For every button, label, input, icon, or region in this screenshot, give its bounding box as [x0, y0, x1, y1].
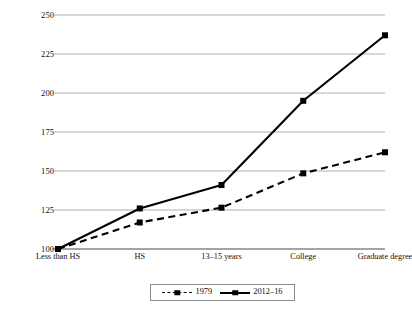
x-tick-label: College — [290, 252, 316, 261]
data-point-marker — [219, 182, 225, 188]
gridlines — [52, 15, 385, 249]
data-point-marker — [137, 219, 143, 225]
legend-item-2012-16[interactable]: 2012–16 — [220, 288, 282, 297]
legend-item-1979[interactable]: 1979 — [162, 288, 212, 297]
x-tick-label: Less than HS — [36, 252, 80, 261]
x-tick-label: Graduate degree — [358, 252, 412, 261]
x-tick-label: 13–15 years — [201, 252, 241, 261]
series-line-1979 — [58, 152, 385, 249]
legend-swatch-solid-icon — [220, 288, 250, 297]
data-point-marker — [382, 32, 388, 38]
series-line-2012–16 — [58, 35, 385, 249]
data-point-marker — [382, 149, 388, 155]
data-point-marker — [300, 170, 306, 176]
data-series-layer — [55, 32, 388, 252]
data-point-marker — [300, 98, 306, 104]
chart-legend: 1979 2012–16 — [150, 284, 295, 301]
data-point-marker — [219, 205, 225, 211]
legend-label-2012-16: 2012–16 — [253, 288, 282, 296]
data-point-marker — [137, 205, 143, 211]
legend-label-1979: 1979 — [195, 288, 212, 296]
x-tick-label: HS — [134, 252, 145, 261]
legend-swatch-dashed-icon — [162, 288, 192, 297]
